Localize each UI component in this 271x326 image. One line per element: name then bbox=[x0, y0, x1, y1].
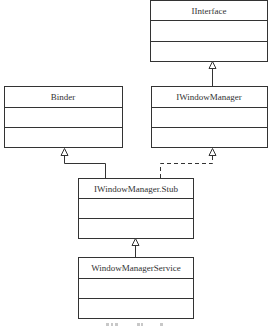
generalization-line bbox=[65, 155, 106, 178]
class-name: Binder bbox=[51, 92, 76, 102]
class-binder: Binder bbox=[5, 87, 123, 148]
class-windowmanagerservice: WindowManagerService bbox=[79, 258, 194, 319]
class-iwindowmanager: IWindowManager bbox=[152, 87, 268, 148]
class-name: IInterface bbox=[192, 6, 227, 16]
hollow-triangle-arrowhead-icon bbox=[209, 149, 216, 156]
uml-diagram: IInterface Binder IWindowManager IWindow… bbox=[0, 0, 271, 326]
class-iinterface: IInterface bbox=[151, 1, 268, 62]
realization-line bbox=[161, 155, 213, 178]
hollow-triangle-arrowhead-icon bbox=[61, 149, 68, 156]
class-name: IWindowManager.Stub bbox=[94, 184, 178, 194]
relation-iwindowmanager-to-iinterface bbox=[209, 62, 216, 87]
relation-stub-to-binder bbox=[61, 149, 106, 179]
class-iwindowmanager-stub: IWindowManager.Stub bbox=[79, 179, 194, 239]
class-name: WindowManagerService bbox=[91, 263, 181, 273]
relation-stub-to-iwindowmanager bbox=[161, 149, 217, 179]
class-name: IWindowManager bbox=[176, 92, 242, 102]
hollow-triangle-arrowhead-icon bbox=[209, 62, 216, 69]
hollow-triangle-arrowhead-icon bbox=[132, 239, 139, 246]
relation-service-to-stub bbox=[132, 239, 139, 258]
